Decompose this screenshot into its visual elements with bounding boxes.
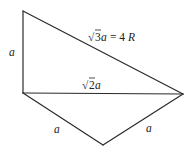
- label-hypotenuse: √ 3 a = 4 R: [88, 30, 135, 43]
- edge-top-right-hypotenuse: [23, 11, 183, 94]
- hypotenuse-eq: = 4: [107, 31, 125, 43]
- edge-left-right-diagonal: [23, 93, 183, 94]
- label-diagonal: √ 2 a: [82, 78, 101, 91]
- label-bottom-left-edge: a: [54, 123, 60, 135]
- geometry-diagram: a √ 3 a = 4 R √ 2 a a a: [0, 0, 196, 152]
- sqrt-symbol: √: [88, 31, 95, 43]
- label-bottom-right-edge: a: [146, 122, 152, 134]
- sqrt-symbol: √: [82, 79, 89, 91]
- diagonal-var: a: [95, 79, 101, 91]
- label-left-edge: a: [9, 46, 15, 58]
- hypotenuse-R: R: [127, 31, 135, 43]
- edge-left-bottom: [23, 93, 103, 145]
- edge-bottom-right: [103, 94, 183, 145]
